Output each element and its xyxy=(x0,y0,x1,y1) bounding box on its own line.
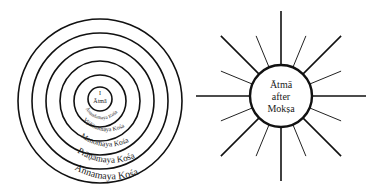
moksa-diagram: Ātmā after Mokṣa xyxy=(196,11,366,181)
short-ray xyxy=(256,36,269,68)
sun-label-after: after xyxy=(272,91,291,102)
long-ray xyxy=(303,118,341,156)
figure-canvas: I Ātmā Ānandamaya Kośa Vijñānamaya Kośa … xyxy=(0,0,380,194)
kosha-diagram: I Ātmā Ānandamaya Kośa Vijñānamaya Kośa … xyxy=(18,19,182,183)
short-ray xyxy=(221,108,253,121)
sheath-label-anandamaya: Ānandamaya Kośa xyxy=(85,107,119,121)
center-label-atma: Ātmā xyxy=(93,98,107,104)
long-ray xyxy=(221,36,259,74)
short-ray xyxy=(310,71,342,84)
short-ray xyxy=(293,36,306,68)
sun-label-moksa: Mokṣa xyxy=(267,103,295,114)
long-ray xyxy=(303,36,341,74)
short-ray xyxy=(221,71,253,84)
long-ray xyxy=(221,118,259,156)
short-ray xyxy=(256,125,269,157)
center-label-i: I xyxy=(99,90,101,96)
short-ray xyxy=(310,108,342,121)
short-ray xyxy=(293,125,306,157)
sun-label-atma: Ātmā xyxy=(270,79,293,90)
